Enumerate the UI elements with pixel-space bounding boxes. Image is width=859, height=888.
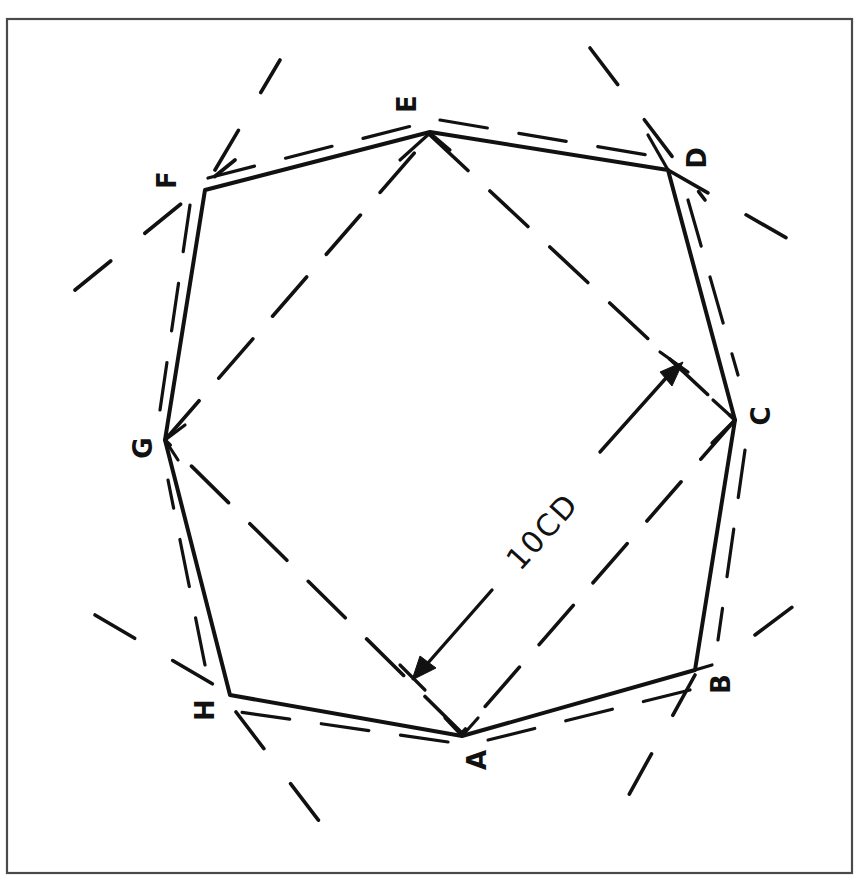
vertex-label-c: C [746,406,776,425]
vertex-label-g: G [128,437,158,458]
vertex-label-b: B [706,674,736,694]
vertex-label-d: D [682,147,712,169]
vertex-label-e: E [392,95,422,113]
inner-dashed-square [165,135,735,733]
octagon-construction-diagram: 10CD E F D C G B H A [0,0,859,888]
dimension-label: 10CD [499,486,585,576]
vertex-ticks [165,133,735,736]
octagon-outline [165,132,735,736]
vertex-label-h: H [190,699,220,721]
vertex-label-a: A [462,750,492,770]
dashed-outline [160,120,745,742]
vertex-label-f: F [152,171,182,189]
